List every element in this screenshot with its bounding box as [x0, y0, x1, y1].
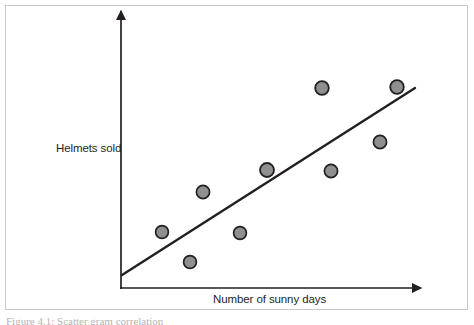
y-axis-label: Helmets sold — [56, 142, 121, 154]
data-point — [184, 256, 197, 269]
data-point — [156, 226, 169, 239]
x-axis-label: Number of sunny days — [213, 293, 326, 305]
data-point — [315, 81, 329, 95]
data-point — [260, 163, 274, 177]
figure-page: Helmets sold Number of sunny days Figure… — [0, 0, 474, 325]
data-point — [234, 227, 247, 240]
data-point — [324, 164, 337, 177]
figure-caption: Figure 4.1: Scatter gram correlation — [6, 315, 306, 325]
trend-line — [122, 88, 415, 275]
data-point — [373, 135, 386, 148]
scatter-plot — [0, 0, 474, 325]
data-point — [390, 80, 404, 94]
data-point — [196, 185, 209, 198]
